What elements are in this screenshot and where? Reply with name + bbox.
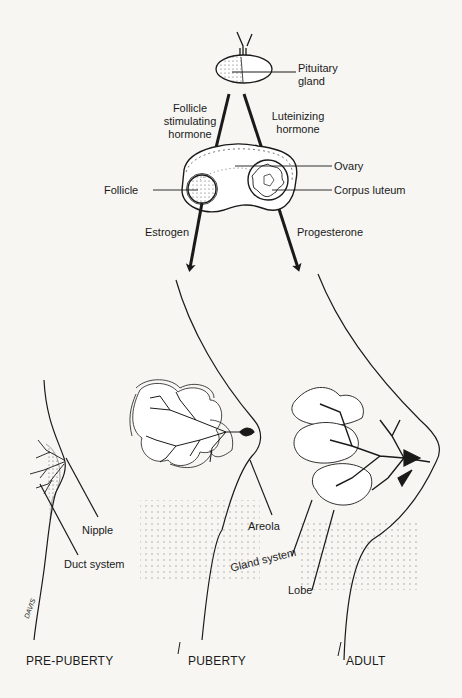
ovary-label: Ovary (334, 160, 363, 173)
fsh-label-line2: stimulating (150, 115, 230, 128)
ovary-icon (182, 144, 297, 212)
fsh-label-line1: Follicle (150, 102, 230, 115)
adult-breast-drawing (292, 274, 440, 660)
pituitary-gland-icon (216, 32, 296, 83)
fsh-label-line3: hormone (150, 128, 230, 141)
corpus-luteum-label: Corpus luteum (334, 184, 406, 197)
pituitary-gland-label: Pituitary gland (298, 62, 338, 88)
follicle-label: Follicle (104, 184, 138, 197)
lobe-label: Lobe (288, 584, 312, 597)
areola-label: Areola (248, 520, 280, 533)
lh-label-line1: Luteinizing (258, 110, 338, 123)
stage-label-puberty: PUBERTY (188, 654, 246, 668)
ovarian-hormone-arrows (190, 203, 298, 268)
pituitary-label-line2: gland (298, 75, 338, 88)
diagram-drawing (0, 0, 462, 698)
stage-label-pre-puberty: PRE-PUBERTY (26, 654, 113, 668)
pituitary-label-line1: Pituitary (298, 62, 338, 75)
pre-puberty-breast-drawing (30, 380, 98, 640)
progesterone-label: Progesterone (297, 226, 363, 239)
estrogen-label: Estrogen (145, 226, 189, 239)
puberty-breast-drawing (130, 280, 272, 640)
lh-label: Luteinizing hormone (258, 110, 338, 136)
fsh-label: Follicle stimulating hormone (150, 102, 230, 141)
lh-label-line2: hormone (258, 123, 338, 136)
stage-label-adult: ADULT (346, 654, 385, 668)
nipple-label: Nipple (82, 524, 113, 537)
duct-system-label: Duct system (64, 558, 125, 571)
